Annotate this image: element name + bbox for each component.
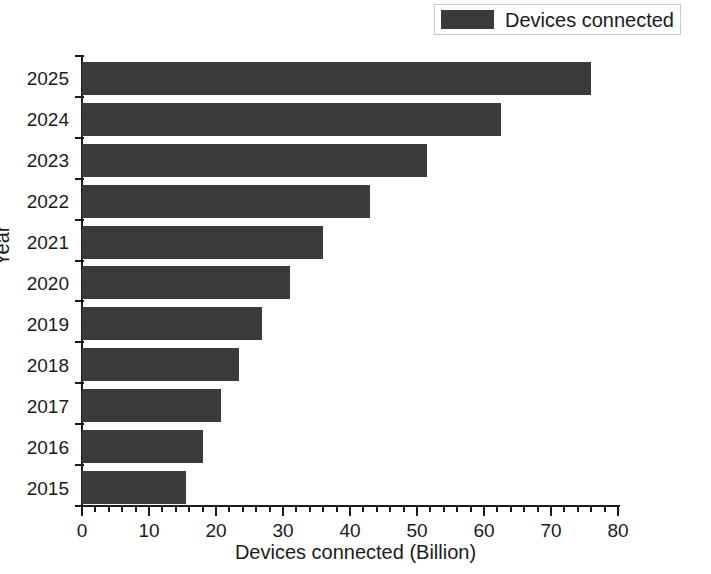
y-tick-2019 [75, 300, 84, 302]
x-tick-42 [362, 505, 364, 512]
x-tick-6 [121, 505, 123, 512]
y-tick-label-2016: 2016 [27, 437, 69, 456]
y-tick-2015 [75, 464, 84, 466]
bar-fill [82, 185, 370, 218]
x-tick-label-10: 10 [138, 521, 159, 540]
x-tick-64 [510, 505, 512, 512]
x-tick-32 [295, 505, 297, 512]
x-tick-16 [188, 505, 190, 512]
legend-swatch-devices-connected [441, 10, 494, 29]
x-tick-label-70: 70 [540, 521, 561, 540]
y-tick-2016 [75, 423, 84, 425]
bar-2015 [82, 471, 186, 504]
x-tick-40 [349, 505, 351, 516]
plot-area: 2025202420232022202120202019201820172016… [82, 55, 618, 505]
x-tick-8 [135, 505, 137, 512]
y-tick-2021 [75, 219, 84, 221]
y-tick-2020 [75, 260, 84, 262]
bar-fill [82, 471, 186, 504]
y-tick-label-2017: 2017 [27, 396, 69, 415]
x-tick-20 [215, 505, 217, 516]
bar-fill [82, 103, 501, 136]
x-tick-label-50: 50 [406, 521, 427, 540]
x-tick-10 [148, 505, 150, 516]
x-tick-label-60: 60 [473, 521, 494, 540]
x-tick-label-0: 0 [77, 521, 88, 540]
x-tick-38 [336, 505, 338, 512]
y-tick-label-2024: 2024 [27, 110, 69, 129]
bar-2022 [82, 185, 370, 218]
bar-2016 [82, 430, 203, 463]
y-tick-2023 [75, 137, 84, 139]
y-tick-2017 [75, 382, 84, 384]
y-tick-label-2022: 2022 [27, 192, 69, 211]
x-tick-70 [550, 505, 552, 516]
bar-2024 [82, 103, 501, 136]
x-tick-44 [376, 505, 378, 512]
bar-2019 [82, 307, 262, 340]
y-tick-label-2025: 2025 [27, 69, 69, 88]
x-tick-0 [81, 505, 83, 516]
x-tick-12 [161, 505, 163, 512]
x-tick-76 [590, 505, 592, 512]
bar-fill [82, 62, 591, 95]
y-tick-2022 [75, 178, 84, 180]
bar-2017 [82, 389, 221, 422]
x-tick-label-20: 20 [205, 521, 226, 540]
bar-2020 [82, 266, 290, 299]
bar-fill [82, 144, 427, 177]
bar-series-devices-connected [82, 55, 618, 505]
y-tick-label-2018: 2018 [27, 355, 69, 374]
x-tick-66 [523, 505, 525, 512]
bar-2018 [82, 348, 239, 381]
x-tick-74 [577, 505, 579, 512]
x-tick-78 [604, 505, 606, 512]
x-tick-60 [483, 505, 485, 516]
x-tick-26 [255, 505, 257, 512]
y-tick-label-2021: 2021 [27, 233, 69, 252]
y-axis-title: Year [0, 226, 12, 266]
y-tick-2018 [75, 341, 84, 343]
y-tick-label-2019: 2019 [27, 314, 69, 333]
bar-fill [82, 307, 262, 340]
x-tick-label-80: 80 [607, 521, 628, 540]
y-tick-label-2020: 2020 [27, 273, 69, 292]
x-tick-30 [282, 505, 284, 516]
x-tick-28 [269, 505, 271, 512]
x-tick-56 [456, 505, 458, 512]
bar-2023 [82, 144, 427, 177]
x-tick-52 [429, 505, 431, 512]
x-tick-34 [309, 505, 311, 512]
x-tick-14 [175, 505, 177, 512]
x-tick-22 [228, 505, 230, 512]
x-tick-2 [94, 505, 96, 512]
y-tick-2024 [75, 96, 84, 98]
bar-2021 [82, 226, 323, 259]
x-tick-46 [389, 505, 391, 512]
bar-fill [82, 430, 203, 463]
x-tick-label-30: 30 [272, 521, 293, 540]
x-tick-24 [242, 505, 244, 512]
bar-fill [82, 348, 239, 381]
x-tick-68 [537, 505, 539, 512]
x-tick-48 [403, 505, 405, 512]
x-tick-label-40: 40 [339, 521, 360, 540]
bar-fill [82, 226, 323, 259]
x-tick-4 [108, 505, 110, 512]
chart-legend: Devices connected [434, 4, 681, 35]
x-tick-72 [563, 505, 565, 512]
bar-2025 [82, 62, 591, 95]
y-tick-label-2015: 2015 [27, 478, 69, 497]
y-tick-label-2023: 2023 [27, 151, 69, 170]
x-tick-18 [202, 505, 204, 512]
y-tick-2025 [75, 55, 84, 57]
x-tick-54 [443, 505, 445, 512]
x-tick-62 [496, 505, 498, 512]
bar-fill [82, 389, 221, 422]
x-tick-36 [322, 505, 324, 512]
bar-chart: Devices connected 2025202420232022202120… [0, 0, 711, 574]
bar-fill [82, 266, 290, 299]
x-tick-50 [416, 505, 418, 516]
x-axis-title: Devices connected (Billion) [0, 542, 711, 562]
x-tick-58 [470, 505, 472, 512]
